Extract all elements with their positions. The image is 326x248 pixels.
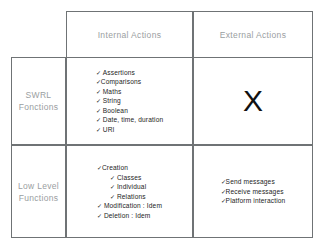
check-icon: ✓: [96, 87, 103, 97]
cell-swrl-internal-actions: ✓Assertions ✓Comparisons ✓Maths ✓String …: [66, 57, 193, 145]
list-item: ✓Receive messages: [221, 187, 286, 197]
row-header-swrl-fonctions: SWRL Fonctions: [11, 57, 66, 145]
row-header-lowlevel-line2: Functions: [19, 193, 59, 203]
list-item-label: Maths: [103, 88, 122, 95]
lowlevel-external-list: ✓Send messages ✓Receive messages ✓Platfo…: [221, 177, 286, 206]
cell-lowlevel-internal-actions: ✓Creation ✓Classes ✓Individual ✓Relation…: [66, 145, 193, 238]
row-header-low-level-functions-label: Low Level Functions: [18, 180, 59, 204]
check-icon: ✓: [96, 106, 103, 116]
list-item-label: Modification : Idem: [104, 202, 162, 209]
row-header-lowlevel-line1: Low Level: [18, 181, 59, 191]
list-item: ✓Classes: [97, 173, 162, 183]
list-item: ✓Individual: [97, 182, 162, 192]
list-item-label: String: [103, 97, 121, 104]
check-icon: ✓: [97, 201, 104, 211]
list-item-label: URI: [103, 126, 115, 133]
list-item: ✓Maths: [96, 87, 164, 97]
list-item-label: Deletion : Idem: [104, 212, 151, 219]
list-item: ✓Deletion : Idem: [97, 211, 162, 221]
list-item: ✓Relations: [97, 192, 162, 202]
column-header-external-actions-label: External Actions: [220, 30, 287, 40]
list-item: ✓Platform interaction: [221, 196, 286, 206]
list-item-label: Platform interaction: [226, 197, 286, 204]
list-item-label: Boolean: [103, 107, 128, 114]
lowlevel-internal-list: ✓Creation ✓Classes ✓Individual ✓Relation…: [97, 163, 162, 220]
row-header-swrl-line2: Fonctions: [19, 102, 59, 112]
swrl-internal-list: ✓Assertions ✓Comparisons ✓Maths ✓String …: [96, 68, 164, 135]
column-header-external-actions: External Actions: [193, 11, 313, 58]
list-item-label: Comparisons: [101, 78, 142, 85]
list-item: ✓Comparisons: [96, 77, 164, 87]
list-item-label: Creation: [102, 164, 128, 171]
row-header-swrl-line1: SWRL: [26, 90, 52, 100]
list-item: ✓Date, time, duration: [96, 115, 164, 125]
list-item: ✓Boolean: [96, 106, 164, 116]
list-item-label: Receive messages: [226, 188, 284, 195]
list-item: ✓Assertions: [96, 68, 164, 78]
cross-mark-icon: X: [243, 86, 263, 116]
check-icon: ✓: [110, 182, 117, 192]
list-item: ✓Creation: [97, 163, 162, 173]
list-item-label: Assertions: [103, 69, 135, 76]
check-icon: ✓: [96, 125, 103, 135]
column-header-internal-actions-label: Internal Actions: [98, 30, 162, 40]
check-icon: ✓: [96, 68, 103, 78]
diagram-canvas: Internal Actions External Actions SWRL F…: [0, 0, 326, 248]
list-item-label: Send messages: [226, 178, 275, 185]
cell-lowlevel-external-actions: ✓Send messages ✓Receive messages ✓Platfo…: [193, 145, 313, 238]
row-header-low-level-functions: Low Level Functions: [11, 145, 66, 238]
list-item-label: Classes: [117, 174, 142, 181]
check-icon: ✓: [110, 192, 117, 202]
check-icon: ✓: [110, 173, 117, 183]
check-icon: ✓: [97, 211, 104, 221]
list-item: ✓URI: [96, 125, 164, 135]
list-item: ✓Modification : Idem: [97, 201, 162, 211]
list-item: ✓Send messages: [221, 177, 286, 187]
check-icon: ✓: [96, 115, 103, 125]
list-item-label: Relations: [117, 193, 146, 200]
check-icon: ✓: [96, 96, 103, 106]
list-item-label: Date, time, duration: [103, 116, 164, 123]
list-item: ✓String: [96, 96, 164, 106]
cell-swrl-external-actions: X: [193, 57, 313, 145]
list-item-label: Individual: [117, 183, 146, 190]
column-header-internal-actions: Internal Actions: [66, 11, 193, 58]
row-header-swrl-fonctions-label: SWRL Fonctions: [19, 89, 59, 113]
